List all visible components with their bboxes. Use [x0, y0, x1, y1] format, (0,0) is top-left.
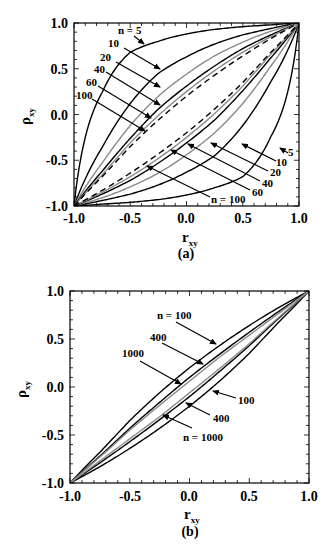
annotation-label: 100 — [76, 89, 93, 101]
x-tick-label: 0.0 — [177, 211, 195, 226]
y-tick-label: 0.5 — [51, 62, 69, 77]
y-tick-label: 0.5 — [47, 332, 65, 347]
annotation-label: 60 — [86, 76, 98, 88]
annotation-label: 60 — [252, 186, 264, 198]
annotation-label: n = 5 — [118, 24, 142, 36]
annotation-label: 20 — [100, 51, 112, 63]
x-tick-label: -1.0 — [59, 489, 81, 504]
annotation-label: 5 — [288, 146, 294, 158]
annotation-label: n = 1000 — [183, 431, 223, 443]
y-tick-label: 1.0 — [51, 16, 69, 31]
annotation-label: n = 100 — [157, 309, 192, 321]
panel-a-caption: (a) — [178, 246, 195, 262]
annotation-label: 400 — [213, 412, 230, 424]
panel-a-annotations-upper: n = 5 10 20 40 60 100 — [76, 24, 160, 131]
y-tick-label: 1.0 — [47, 284, 65, 299]
y-axis-label: ρxy — [17, 107, 36, 125]
annotation-label: 10 — [108, 37, 120, 49]
y-tick-label: -0.5 — [46, 153, 68, 168]
x-axis-label: rxy — [184, 506, 200, 525]
x-tick-label: -1.0 — [63, 211, 85, 226]
y-tick-label: -0.5 — [42, 428, 64, 443]
x-tick-label: 1.0 — [300, 489, 318, 504]
annotation-label: 40 — [94, 63, 106, 75]
x-tick-label: -0.5 — [119, 211, 141, 226]
panel-b-annotations-upper: n = 100 400 1000 — [122, 309, 216, 384]
panel-b-caption: (b) — [181, 524, 198, 540]
x-tick-label: 0.0 — [180, 489, 198, 504]
panel-a: 1.0 0.5 0.0 -0.5 -1.0 -1.0 -0.5 0.0 0.5 … — [17, 16, 308, 262]
y-tick-label: 0.0 — [51, 108, 69, 123]
annotation-label: 400 — [150, 331, 167, 343]
figure: 1.0 0.5 0.0 -0.5 -1.0 -1.0 -0.5 0.0 0.5 … — [0, 0, 333, 557]
panel-b-annotations-lower: 100 400 n = 1000 — [163, 391, 255, 443]
y-tick-label: 0.0 — [47, 380, 65, 395]
y-axis-label: ρxy — [13, 380, 32, 398]
annotation-label: 40 — [262, 177, 274, 189]
x-tick-label: 0.5 — [240, 489, 258, 504]
x-tick-label: 0.5 — [234, 211, 252, 226]
x-tick-label: 1.0 — [290, 211, 308, 226]
panel-a-annotations-lower: 5 10 20 40 60 n = 100 — [147, 143, 294, 205]
annotation-label: n = 100 — [211, 193, 246, 205]
annotation-label: 100 — [238, 394, 255, 406]
x-tick-label: -0.5 — [119, 489, 141, 504]
annotation-label: 1000 — [122, 347, 145, 359]
panel-b: 1.0 0.5 0.0 -0.5 -1.0 -1.0 -0.5 0.0 0.5 … — [13, 284, 318, 540]
